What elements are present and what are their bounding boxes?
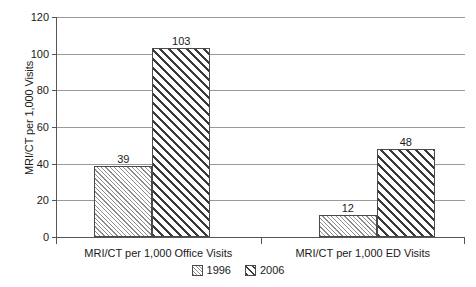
legend-item-1996: 1996 bbox=[192, 265, 231, 276]
legend-item-2006: 2006 bbox=[245, 265, 284, 276]
legend-label-1996: 1996 bbox=[207, 265, 231, 276]
chart-legend: 1996 2006 bbox=[0, 265, 476, 276]
bar: 12 bbox=[319, 215, 377, 237]
y-tick-label: 20 bbox=[37, 195, 49, 206]
category-label: MRI/CT per 1,000 ED Visits bbox=[295, 248, 430, 259]
y-tick-mark bbox=[52, 54, 56, 55]
y-axis-title: MRI/CT per 1,000 Visits bbox=[23, 13, 35, 223]
plot-area: 020406080100120 391031248 MRI/CT per 1,0… bbox=[56, 17, 465, 238]
bar: 103 bbox=[152, 48, 210, 237]
category-label: MRI/CT per 1,000 Office Visits bbox=[84, 248, 232, 259]
bar-value-label: 12 bbox=[342, 203, 354, 214]
gridline bbox=[57, 127, 465, 128]
y-tick-label: 60 bbox=[37, 122, 49, 133]
y-tick-label: 100 bbox=[31, 48, 49, 59]
bar-value-label: 103 bbox=[172, 36, 190, 47]
bar: 39 bbox=[94, 166, 152, 238]
y-tick-mark bbox=[52, 127, 56, 128]
bar-value-label: 39 bbox=[117, 154, 129, 165]
y-tick-label: 120 bbox=[31, 12, 49, 23]
gridline bbox=[57, 90, 465, 91]
category-tick bbox=[56, 237, 57, 244]
legend-swatch-2006-icon bbox=[245, 265, 256, 276]
y-tick-label: 80 bbox=[37, 85, 49, 96]
legend-swatch-1996-icon bbox=[192, 265, 203, 276]
bar-value-label: 48 bbox=[400, 137, 412, 148]
y-tick-label: 40 bbox=[37, 158, 49, 169]
y-tick-mark bbox=[52, 90, 56, 91]
category-tick bbox=[261, 237, 262, 244]
legend-label-2006: 2006 bbox=[260, 265, 284, 276]
bar-chart: MRI/CT per 1,000 Visits 020406080100120 … bbox=[0, 0, 476, 287]
y-tick-mark bbox=[52, 164, 56, 165]
y-tick-mark bbox=[52, 17, 56, 18]
bar: 48 bbox=[377, 149, 435, 237]
gridline bbox=[57, 54, 465, 55]
gridline bbox=[57, 17, 465, 18]
y-tick-label: 0 bbox=[43, 232, 49, 243]
category-tick bbox=[464, 237, 465, 244]
y-tick-mark bbox=[52, 200, 56, 201]
